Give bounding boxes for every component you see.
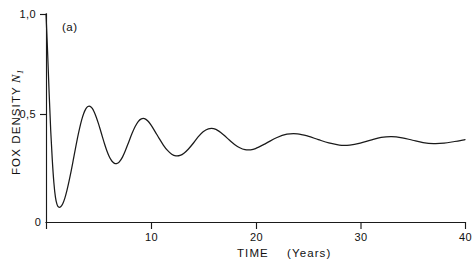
fox-density-curve — [46, 14, 465, 207]
y-axis-title-subscript: 1 — [15, 70, 25, 74]
x-tick-label-0: 0 — [35, 216, 42, 228]
x-axis-title-unit: (Years) — [287, 247, 331, 259]
x-tick-label-10: 10 — [145, 231, 158, 243]
y-axis-title-symbol: N — [9, 74, 23, 84]
panel-label: (a) — [62, 21, 78, 33]
figure-panel-a: 1,0 0,5 0 10 20 30 40 TIME (Years) FOX D… — [0, 0, 472, 266]
y-tick-label-1-0: 1,0 — [20, 8, 37, 20]
chart-canvas: 1,0 0,5 0 10 20 30 40 TIME (Years) FOX D… — [0, 0, 472, 266]
x-tick-label-20: 20 — [250, 231, 263, 243]
x-tick-label-40: 40 — [459, 231, 472, 243]
x-tick-label-30: 30 — [354, 231, 367, 243]
y-axis-title-group: FOX DENSITY N 1 — [9, 70, 25, 175]
x-axis-title-main: TIME — [237, 247, 269, 259]
y-axis-title-main: FOX DENSITY — [10, 86, 22, 175]
